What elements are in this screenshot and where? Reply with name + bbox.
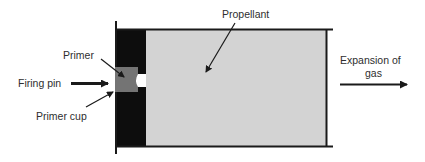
label-primer: Primer <box>63 49 94 61</box>
label-firing-pin: Firing pin <box>18 77 61 89</box>
label-expansion-line1: Expansion of <box>340 54 401 66</box>
primer <box>115 67 138 92</box>
cartridge-diagram: Primer Firing pin Primer cup Propellant … <box>0 0 425 162</box>
label-expansion-line2: gas <box>365 67 382 79</box>
propellant-chamber <box>146 30 327 146</box>
label-primer-cup: Primer cup <box>36 110 87 122</box>
flash-hole <box>136 74 147 87</box>
primer-cup-leader <box>86 92 113 107</box>
diagram-canvas <box>0 0 425 162</box>
label-propellant: Propellant <box>222 8 269 20</box>
